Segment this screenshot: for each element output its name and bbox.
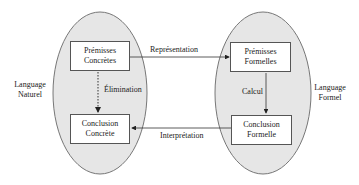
formal-language-region (215, 12, 311, 174)
box-line: Prémisses (231, 47, 290, 57)
formal-language-label: Language Formel (310, 83, 350, 103)
box-line: Formelles (231, 57, 290, 67)
conclusion-concrete-box: Conclusion Concrète (70, 114, 130, 144)
label-line: Formel (310, 93, 350, 103)
calcul-label: Calcul (242, 87, 263, 97)
natural-language-label: Language Naturel (10, 80, 50, 100)
conclusion-formal-box: Conclusion Formelle (231, 115, 292, 145)
representation-label: Représentation (150, 45, 198, 55)
box-line: Prémisses (71, 46, 129, 56)
diagram-canvas (0, 0, 359, 185)
box-line: Conclusion (232, 120, 291, 130)
label-line: Language (10, 80, 50, 90)
box-line: Formelle (232, 130, 291, 140)
premises-concrete-box: Prémisses Concrètes (70, 41, 130, 71)
interpretation-label: Interprétation (160, 131, 204, 141)
label-line: Naturel (10, 90, 50, 100)
premises-formal-box: Prémisses Formelles (230, 42, 291, 72)
label-line: Language (310, 83, 350, 93)
elimination-label: Élimination (104, 85, 142, 95)
box-line: Conclusion (71, 119, 129, 129)
box-line: Concrète (71, 129, 129, 139)
box-line: Concrètes (71, 56, 129, 66)
